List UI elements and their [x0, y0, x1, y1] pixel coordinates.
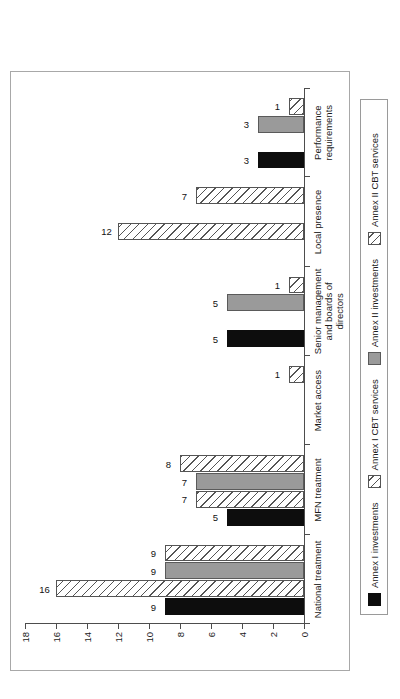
legend-swatch-icon [368, 232, 381, 245]
y-axis-tick [87, 624, 88, 629]
plot-area: 024681012141618 9169957781551127331 Nati… [25, 88, 305, 624]
y-axis-tick-label: 14 [82, 632, 93, 643]
legend-swatch-icon [368, 593, 381, 606]
category-label: Senior managementand boards ofdirectors [312, 263, 345, 359]
bar-value-label: 7 [181, 494, 186, 505]
y-axis-tick-label: 18 [20, 632, 31, 643]
bar-value-label: 9 [150, 548, 155, 559]
bar-3-0: 9 [165, 545, 305, 562]
y-axis-tick-label: 16 [51, 632, 62, 643]
x-axis-tick [305, 444, 310, 445]
category-label: National treatment [312, 531, 323, 627]
legend-label: Annex II CBT services [369, 133, 380, 227]
y-axis-tick [25, 624, 26, 629]
y-axis-tick-label: 4 [237, 632, 248, 637]
y-axis-line [25, 623, 305, 624]
y-axis-tick-label: 8 [175, 632, 186, 637]
bar-3-3: 1 [289, 277, 305, 294]
legend-item-1[interactable]: Annex I CBT services [368, 379, 381, 488]
y-axis-tick-label: 6 [206, 632, 217, 637]
bar-value-label: 5 [212, 512, 217, 523]
y-axis-tick [56, 624, 57, 629]
category-label: Performancerequirements [312, 85, 334, 181]
legend-swatch-icon [368, 352, 381, 365]
y-axis-tick [242, 624, 243, 629]
legend-label: Annex I CBT services [369, 379, 380, 470]
legend-item-0[interactable]: Annex I investments [368, 502, 381, 606]
bar-3-4: 7 [196, 187, 305, 204]
bar-3-5: 1 [289, 98, 305, 115]
y-axis-tick-label: 10 [144, 632, 155, 643]
y-axis-tick-label: 0 [299, 632, 310, 637]
bar-1-4: 12 [118, 223, 304, 240]
bar-1-0: 16 [56, 580, 304, 597]
y-axis-tick [211, 624, 212, 629]
legend-label: Annex II investments [369, 259, 380, 347]
chart-legend: Annex I investmentsAnnex I CBT servicesA… [360, 99, 388, 615]
legend-item-3[interactable]: Annex II CBT services [368, 133, 381, 245]
x-axis-tick [305, 534, 310, 535]
bar-value-label: 1 [274, 280, 279, 291]
bar-3-1: 8 [180, 455, 304, 472]
bar-value-label: 16 [39, 583, 50, 594]
bar-3-2: 1 [289, 366, 305, 383]
y-axis-tick [118, 624, 119, 629]
x-axis-tick [305, 88, 310, 89]
bar-2-0: 9 [165, 562, 305, 579]
plot-frame: 024681012141618 9169957781551127331 Nati… [10, 71, 350, 671]
y-axis-tick [149, 624, 150, 629]
bar-0-0: 9 [165, 598, 305, 615]
x-axis-tick [305, 623, 310, 624]
y-axis-tick-label: 12 [113, 632, 124, 643]
bar-value-label: 12 [101, 226, 112, 237]
bar-0-3: 5 [227, 330, 305, 347]
category-label: Market access [312, 353, 323, 449]
x-axis-tick [305, 176, 310, 177]
category-label: MFN treatment [312, 442, 323, 538]
x-axis-line [304, 88, 305, 624]
bar-chart-figure: 024681012141618 9169957781551127331 Nati… [0, 0, 400, 699]
x-axis-tick [305, 266, 310, 267]
bar-value-label: 1 [274, 369, 279, 380]
rotated-figure-stage: 024681012141618 9169957781551127331 Nati… [0, 0, 400, 699]
legend-item-2[interactable]: Annex II investments [368, 259, 381, 365]
bar-value-label: 7 [181, 476, 186, 487]
legend-label: Annex I investments [369, 502, 380, 588]
bar-value-label: 7 [181, 190, 186, 201]
category-label: Local presence [312, 174, 323, 270]
y-axis-tick [273, 624, 274, 629]
bar-value-label: 9 [150, 565, 155, 576]
bar-2-1: 7 [196, 473, 305, 490]
y-axis-tick [180, 624, 181, 629]
bar-value-label: 3 [243, 119, 248, 130]
legend-swatch-icon [368, 475, 381, 488]
bar-0-1: 5 [227, 509, 305, 526]
bar-value-label: 1 [274, 101, 279, 112]
bar-value-label: 8 [166, 458, 171, 469]
bar-value-label: 5 [212, 333, 217, 344]
bar-0-5: 3 [258, 152, 305, 169]
bar-2-5: 3 [258, 116, 305, 133]
bar-value-label: 9 [150, 601, 155, 612]
bar-value-label: 5 [212, 297, 217, 308]
x-axis-tick [305, 355, 310, 356]
bar-2-3: 5 [227, 294, 305, 311]
bar-value-label: 3 [243, 154, 248, 165]
y-axis-tick [304, 624, 305, 629]
y-axis-tick-label: 2 [268, 632, 279, 637]
bar-1-1: 7 [196, 491, 305, 508]
